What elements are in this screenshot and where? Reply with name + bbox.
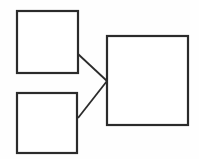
bottom-left-box[interactable] bbox=[17, 93, 77, 153]
top-left-to-right-connector[interactable] bbox=[78, 54, 107, 81]
diagram-svg bbox=[0, 0, 199, 159]
diagram-canvas bbox=[0, 0, 199, 159]
top-left-box[interactable] bbox=[17, 11, 78, 73]
right-box[interactable] bbox=[107, 36, 188, 125]
bottom-left-to-right-connector[interactable] bbox=[78, 81, 107, 118]
nodes-group bbox=[17, 11, 188, 153]
connectors-group bbox=[78, 54, 107, 118]
